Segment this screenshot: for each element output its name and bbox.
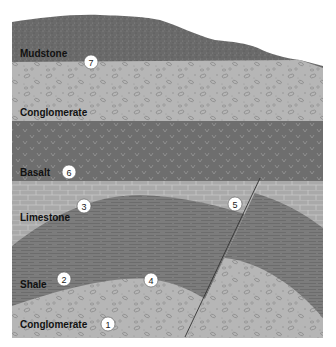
label-basalt: Basalt: [20, 167, 51, 178]
svg-text:2: 2: [61, 275, 66, 285]
label-mudstone: Mudstone: [20, 48, 68, 59]
basalt-layer: [12, 121, 323, 181]
svg-text:3: 3: [81, 202, 86, 212]
svg-text:6: 6: [66, 168, 71, 178]
label-shale: Shale: [20, 279, 47, 290]
label-conglomerate-upper: Conglomerate: [20, 107, 88, 118]
svg-text:4: 4: [148, 276, 153, 286]
marker-3: 3: [77, 199, 91, 213]
marker-1: 1: [101, 317, 115, 331]
marker-6: 6: [62, 165, 76, 179]
svg-text:7: 7: [88, 58, 93, 68]
marker-5: 5: [228, 197, 242, 211]
label-limestone: Limestone: [20, 212, 70, 223]
marker-7: 7: [84, 55, 98, 69]
marker-4: 4: [144, 273, 158, 287]
label-conglomerate-lower: Conglomerate: [20, 319, 88, 330]
svg-text:5: 5: [232, 200, 237, 210]
marker-2: 2: [57, 272, 71, 286]
geologic-cross-section: Mudstone Conglomerate Basalt Limestone S…: [0, 0, 336, 347]
svg-text:1: 1: [105, 320, 110, 330]
